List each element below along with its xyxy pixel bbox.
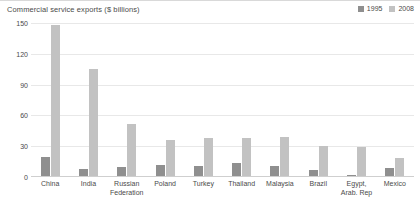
bar-2008[interactable] [166, 140, 175, 176]
legend-swatch-2008 [389, 6, 395, 12]
bar-1995[interactable] [232, 163, 241, 176]
bar-1995[interactable] [41, 157, 50, 177]
bar-2008[interactable] [395, 158, 404, 176]
bar-1995[interactable] [79, 169, 88, 176]
y-tick-label: 60 [0, 112, 28, 119]
bar-group [146, 23, 184, 176]
legend-swatch-1995 [358, 6, 364, 12]
bar-2008[interactable] [51, 25, 60, 176]
bar-2008[interactable] [89, 69, 98, 176]
x-axis-label: Mexico [376, 180, 414, 208]
bar-2008[interactable] [127, 124, 136, 176]
bar-groups [31, 23, 414, 176]
bar-group [376, 23, 414, 176]
legend-item-1995[interactable]: 1995 [358, 5, 383, 12]
axis-baseline [31, 176, 414, 177]
bar-1995[interactable] [156, 165, 165, 176]
x-axis: ChinaIndiaRussian FederationPolandTurkey… [31, 180, 414, 208]
x-axis-label: Egypt, Arab. Rep [337, 180, 375, 208]
bar-group [299, 23, 337, 176]
chart-card: Commercial service exports ($ billions) … [0, 0, 420, 209]
bar-group [69, 23, 107, 176]
bar-group [184, 23, 222, 176]
bar-group [337, 23, 375, 176]
bar-2008[interactable] [204, 138, 213, 176]
bar-group [261, 23, 299, 176]
x-axis-label: China [31, 180, 69, 208]
y-axis: 1501209060300 [0, 23, 28, 178]
x-axis-label: Poland [146, 180, 184, 208]
legend-item-2008[interactable]: 2008 [389, 5, 414, 12]
y-tick-label: 90 [0, 81, 28, 88]
x-axis-label: India [69, 180, 107, 208]
bar-group [108, 23, 146, 176]
x-axis-label: Brazil [299, 180, 337, 208]
legend-label-2008: 2008 [398, 5, 414, 12]
bar-group [31, 23, 69, 176]
bar-2008[interactable] [242, 138, 251, 176]
bar-1995[interactable] [385, 168, 394, 176]
bar-1995[interactable] [117, 167, 126, 176]
bar-1995[interactable] [270, 166, 279, 176]
x-axis-label: Turkey [184, 180, 222, 208]
bar-2008[interactable] [319, 146, 328, 176]
y-tick-label: 0 [0, 174, 28, 181]
x-axis-label: Thailand [222, 180, 260, 208]
y-tick-label: 120 [0, 50, 28, 57]
bar-1995[interactable] [194, 166, 203, 176]
chart-legend: 1995 2008 [358, 5, 414, 12]
bar-2008[interactable] [357, 147, 366, 176]
chart-title: Commercial service exports ($ billions) [7, 5, 140, 14]
x-axis-label: Malaysia [261, 180, 299, 208]
legend-label-1995: 1995 [367, 5, 383, 12]
y-tick-label: 30 [0, 143, 28, 150]
plot-area [31, 23, 414, 177]
bar-group [222, 23, 260, 176]
x-axis-label: Russian Federation [108, 180, 146, 208]
y-tick-label: 150 [0, 20, 28, 27]
bar-2008[interactable] [280, 137, 289, 176]
